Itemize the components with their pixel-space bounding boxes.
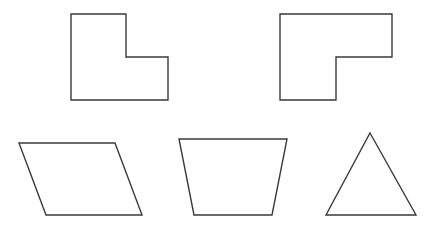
trapezoid — [179, 139, 287, 215]
l-shape-1 — [71, 14, 168, 100]
parallelogram — [19, 143, 142, 215]
triangle — [326, 133, 416, 215]
shapes-diagram — [0, 0, 435, 227]
l-shape-2 — [280, 14, 392, 100]
